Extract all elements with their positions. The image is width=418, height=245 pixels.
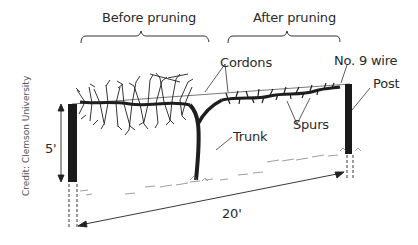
- left-cordon: [80, 102, 190, 105]
- height-dimension-label: 5': [45, 141, 56, 156]
- width-dimension-label: 20': [222, 206, 242, 221]
- before-pruning-label: Before pruning: [102, 10, 196, 25]
- spurs-label: Spurs: [293, 117, 329, 132]
- trunk-label: Trunk: [233, 129, 267, 144]
- right-post: [345, 84, 352, 154]
- trellis-diagram: Before pruning After pruning Cordons No.…: [0, 0, 418, 245]
- credit-text: Credit: Clemson University: [21, 76, 31, 196]
- post-label: Post: [373, 76, 399, 91]
- before-pruning-bracket: [81, 31, 209, 43]
- left-post: [68, 104, 77, 182]
- after-pruning-bracket: [228, 31, 340, 43]
- wire-label: No. 9 wire: [334, 53, 397, 68]
- height-dimension-arrow: [58, 104, 64, 182]
- diagram-artwork: [0, 0, 418, 245]
- trunk: [190, 105, 199, 180]
- after-pruning-label: After pruning: [253, 10, 336, 25]
- width-dimension-arrow: [69, 155, 353, 228]
- cordons-label: Cordons: [220, 55, 272, 70]
- ground-marks: [80, 148, 361, 195]
